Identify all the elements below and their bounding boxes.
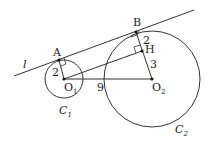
- point-b: [134, 30, 137, 33]
- point-label-a: A: [53, 47, 61, 58]
- circle-label-c2: C2: [175, 124, 188, 138]
- geometry-diagram: l A 2 O1 9 C1 B 2 H 3 O2 C2: [0, 0, 210, 145]
- radius-label-c1: 2: [52, 67, 59, 78]
- segment-o1a: [59, 60, 64, 79]
- center-o2-sub: 2: [161, 88, 165, 96]
- point-label-h: H: [145, 44, 155, 55]
- center-o1-letter: O: [64, 81, 73, 94]
- circle-c1-sub: 1: [67, 111, 71, 119]
- point-h: [140, 49, 143, 52]
- circle-label-c1: C1: [59, 105, 72, 119]
- center-o1-sub: 1: [73, 88, 77, 96]
- center-o2-letter: O: [152, 81, 161, 94]
- right-angle-mark-a: [61, 58, 66, 66]
- center-label-o2: O2: [152, 82, 166, 96]
- segment-label-o1o2: 9: [97, 82, 104, 93]
- line-label-l: l: [23, 59, 27, 70]
- segment-label-ho2: 3: [150, 59, 157, 70]
- point-label-b: B: [133, 17, 141, 28]
- center-label-o1: O1: [64, 82, 78, 96]
- tangent-line-l: [14, 10, 194, 76]
- segment-o1h: [64, 51, 142, 79]
- circle-c2-sub: 2: [183, 130, 187, 138]
